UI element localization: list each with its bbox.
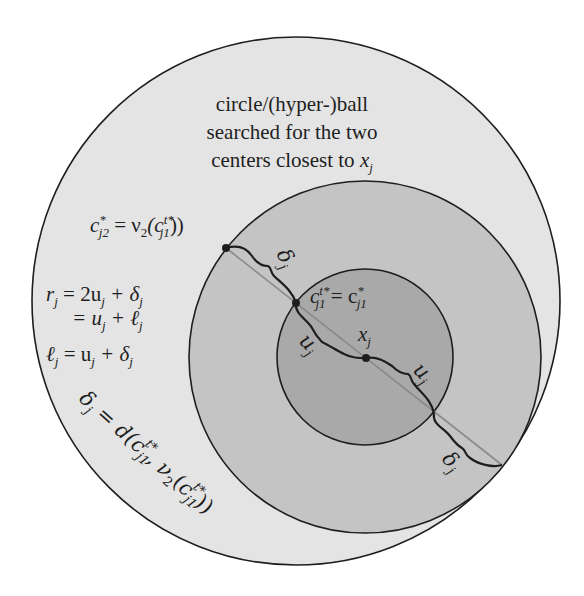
search-ball-caption: circle/(hyper-)ball searched for the two… [0,90,584,182]
label-l-equation: ℓj = uj + δj [46,342,133,370]
caption-line-1: circle/(hyper-)ball [0,90,584,118]
label-x-j: xj [358,322,371,350]
label-c-j2-equation: c*j2 = ν2(ct*j1)) [90,212,184,241]
point-c-j2 [222,244,230,252]
caption-line-3: centers closest to xj [0,146,584,182]
label-c-j1-equation: ct*j1 = c*j1 [310,283,367,312]
caption-line-2: searched for the two [0,118,584,146]
label-radius-equation-line2: = uj + ℓj [72,306,143,334]
point-x-j [362,354,370,362]
caption-var: xj [360,148,373,172]
point-c-j1 [292,299,300,307]
